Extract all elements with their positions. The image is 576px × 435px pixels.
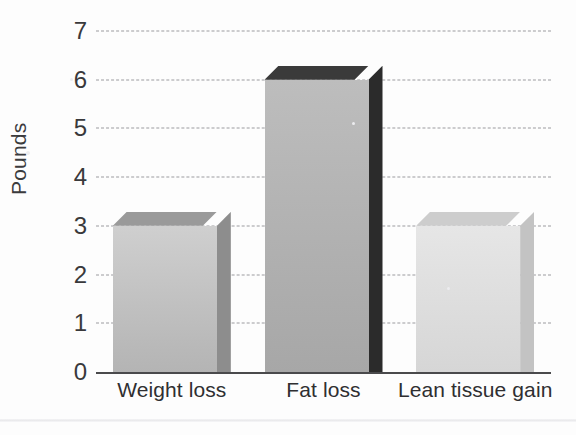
bar-top-face <box>113 212 217 226</box>
y-axis-tick-label: 5 <box>74 116 87 140</box>
y-axis-title: Pounds <box>7 123 31 195</box>
y-axis-tick-label: 2 <box>74 263 87 287</box>
bar-top-face <box>416 212 520 226</box>
y-axis-tick-label: 1 <box>74 311 87 335</box>
y-axis-tick-label: 7 <box>74 19 87 43</box>
scan-speck <box>447 287 450 290</box>
y-axis-tick-label: 6 <box>74 68 87 92</box>
x-axis-tick-label: Weight loss <box>117 378 226 402</box>
bar-side-face <box>369 66 383 372</box>
gridline <box>96 31 551 32</box>
x-axis-line <box>96 372 551 374</box>
bar-side-fill <box>520 212 534 372</box>
bar-side-face <box>217 212 231 372</box>
plot-area: 01234567 Weight lossFat lossLean tissue … <box>96 31 551 372</box>
y-axis-tick-label: 0 <box>74 360 87 384</box>
bar-side-fill <box>217 212 231 372</box>
bar-side-fill <box>369 66 383 372</box>
y-axis-tick-label: 3 <box>74 214 87 238</box>
x-axis-tick-label: Fat loss <box>286 378 360 402</box>
bar-weight-loss <box>113 226 217 372</box>
bar-side-face <box>520 212 534 372</box>
bar-front-face <box>113 226 217 372</box>
scan-speck <box>26 151 30 155</box>
y-axis-tick-label: 4 <box>74 165 87 189</box>
bar-lean-tissue-gain <box>416 226 520 372</box>
bar-front-face <box>416 226 520 372</box>
bar-top-face <box>265 66 369 80</box>
x-axis-tick-label: Lean tissue gain <box>398 378 553 402</box>
footer-rule <box>0 419 576 422</box>
bar-chart: Pounds 01234567 Weight lossFat lossLean … <box>0 0 576 435</box>
scan-speck <box>70 78 73 81</box>
scan-speck <box>352 122 355 125</box>
